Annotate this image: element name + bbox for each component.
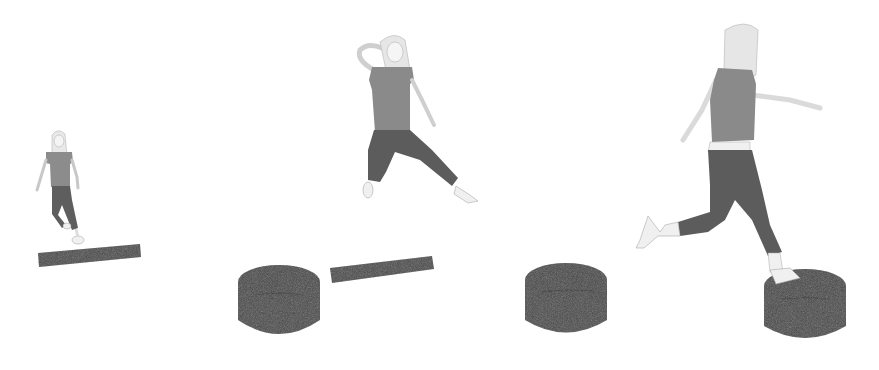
balance-beam-2 <box>330 256 434 283</box>
illustration-scene <box>0 0 879 370</box>
stepping-pod-1 <box>238 265 320 334</box>
scene-svg <box>0 0 879 370</box>
stepping-pod-2 <box>525 263 607 333</box>
girl-figure-1 <box>37 131 84 244</box>
balance-beam-1 <box>38 244 141 267</box>
girl-figure-2 <box>359 35 478 203</box>
girl-figure-3 <box>636 24 820 284</box>
